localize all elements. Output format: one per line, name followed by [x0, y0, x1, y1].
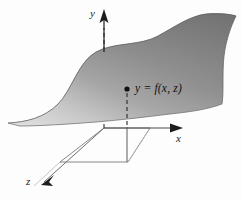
z-axis-label: z: [26, 176, 30, 187]
z-axis: [41, 128, 104, 186]
y-axis-label: y: [90, 8, 95, 19]
z-axis-arrowhead: [41, 175, 54, 186]
projection-parallelogram: [60, 128, 150, 162]
function-point-label: y = f(x, z): [135, 83, 182, 95]
surface-point-marker: [124, 86, 129, 91]
y-axis: [100, 9, 109, 52]
figure-canvas: [0, 0, 242, 200]
x-axis-label: x: [176, 133, 181, 144]
surface-figure: y x z y = f(x, z): [0, 0, 242, 200]
x-axis: [104, 124, 183, 133]
function-surface: [0, 0, 242, 200]
